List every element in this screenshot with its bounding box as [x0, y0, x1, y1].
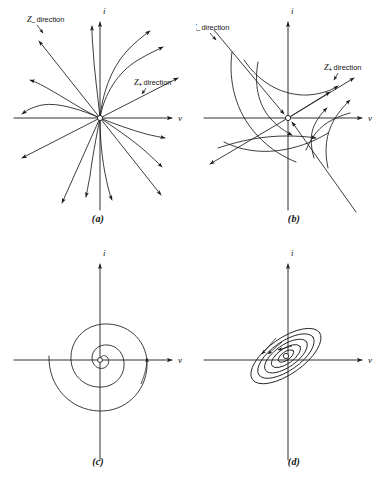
annotation-z-plus-b: Z+direction: [324, 63, 361, 80]
i-axis-label-a: i: [103, 6, 106, 16]
panel-b: i v: [196, 0, 392, 238]
axes-a: i v: [14, 6, 182, 210]
equilibrium-point-d: [283, 353, 288, 358]
trajectory-a-5: [22, 104, 100, 118]
panel-a: i v: [0, 0, 196, 238]
caption-b: (b): [196, 213, 392, 224]
panel-b-diagram: i v: [196, 0, 392, 238]
orbit-arrow-middle-d: [268, 342, 282, 354]
caption-a: (a): [0, 213, 196, 224]
trajectory-a-7: [100, 118, 165, 138]
z-minus-leader-a: [37, 25, 43, 33]
z-plus-leader-a: [142, 88, 146, 94]
spiral-c: [49, 324, 147, 411]
panel-c: i v (c): [0, 238, 196, 477]
trajectory-a-9: [86, 118, 100, 197]
panel-d-diagram: i v: [196, 238, 392, 477]
equilibrium-point-b: [285, 115, 290, 120]
ray-z-minus-upper-a: [39, 41, 100, 118]
v-axis-label-b: v: [368, 113, 372, 123]
axes-b: i v: [204, 6, 372, 210]
i-axis-label-b: i: [291, 6, 294, 16]
separatrix-z-plus-inner-b: [288, 92, 330, 118]
annotation-z-minus-b: Z–direction: [196, 23, 229, 40]
direction-arrow-c: [141, 358, 147, 384]
z-plus-leader-b: [334, 73, 338, 80]
caption-c: (c): [0, 456, 196, 467]
z-minus-direction-label-b: Z–direction: [196, 23, 229, 33]
panel-c-diagram: i v: [0, 238, 196, 477]
v-axis-label-a: v: [178, 113, 182, 123]
trajectory-b-3: [257, 62, 293, 135]
axes-c: i v: [14, 248, 182, 460]
separatrix-z-minus-in-upper-b: [214, 30, 284, 114]
equilibrium-point-a: [97, 115, 102, 120]
i-axis-label-c: i: [103, 248, 106, 258]
trajectory-a-6: [100, 118, 162, 167]
v-axis-label-c: v: [178, 355, 182, 365]
panel-a-diagram: i v: [0, 0, 196, 238]
z-minus-direction-label-a: Z–direction: [27, 15, 64, 25]
trajectory-a-4: [30, 80, 100, 118]
trajectory-b-7: [311, 108, 327, 158]
z-minus-leader-b: [210, 33, 216, 40]
panel-d: i v (d): [196, 238, 392, 477]
separatrices-b: [210, 30, 356, 212]
ray-lower-left-a: [62, 118, 100, 203]
z-plus-direction-label-b: Z+direction: [324, 63, 361, 73]
trajectory-b-6: [326, 100, 350, 168]
caption-d: (d): [196, 456, 392, 467]
ray-z-plus-lower-a: [22, 118, 100, 158]
annotation-z-minus-a: Z–direction: [27, 15, 64, 33]
z-plus-direction-label-a: Z+direction: [134, 78, 171, 88]
v-axis-label-d: v: [368, 355, 372, 365]
phase-portrait-figure: i v: [0, 0, 392, 477]
annotation-z-plus-a: Z+direction: [134, 78, 171, 94]
trajectory-a-3: [92, 26, 100, 118]
i-axis-label-d: i: [291, 248, 294, 258]
equilibrium-point-c: [98, 358, 103, 363]
trajectories-a: [22, 26, 165, 200]
outward-spiral-path-c: [49, 324, 147, 411]
